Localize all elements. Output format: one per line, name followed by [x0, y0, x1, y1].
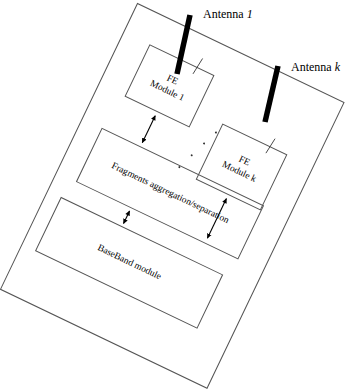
arrow-fragments-to-baseband — [124, 211, 130, 224]
tilted-diagram-stage: FE Module 1 FE Module k Fragments aggreg… — [0, 0, 358, 390]
antenna-1-label-index: 1 — [247, 7, 253, 21]
antenna-1-label-prefix: Antenna — [203, 7, 247, 21]
diagram-root: FE Module 1 FE Module k Fragments aggreg… — [0, 0, 358, 390]
antenna-k-label: Antenna k — [291, 60, 340, 75]
arrow-fe1-to-fragments — [142, 116, 155, 143]
connection-arrows-layer: Fragments --> Fragments --> BaseBand --> — [0, 0, 358, 390]
antenna-1-label: Antenna 1 — [203, 7, 253, 22]
antenna-k-feed-line — [266, 138, 275, 154]
antenna-1-feed-line — [193, 58, 203, 75]
antenna-k-label-prefix: Antenna — [291, 60, 335, 74]
arrow-fek-to-fragments — [207, 199, 226, 239]
antenna-k-label-index: k — [335, 60, 340, 74]
